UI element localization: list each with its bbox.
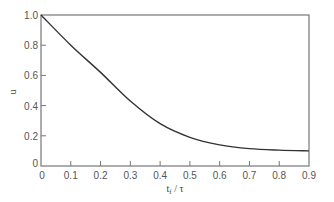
x-tick-label: 0.8 bbox=[272, 170, 286, 181]
y-tick-label: 0.4 bbox=[24, 101, 38, 112]
line-chart: 00.10.20.30.40.50.60.70.80.9 00.20.40.60… bbox=[0, 0, 334, 202]
x-tick-label: 0.3 bbox=[123, 170, 137, 181]
x-axis-ticks: 00.10.20.30.40.50.60.70.80.9 bbox=[39, 161, 316, 181]
x-tick-label: 0.6 bbox=[213, 170, 227, 181]
plot-border bbox=[41, 15, 309, 166]
y-axis-label: u bbox=[7, 90, 18, 95]
x-tick-label: 0.4 bbox=[153, 170, 167, 181]
x-tick-label: 0.7 bbox=[242, 170, 256, 181]
x-tick-label: 0 bbox=[39, 170, 45, 181]
y-tick-label: 0.2 bbox=[24, 131, 38, 142]
y-axis-ticks: 00.20.40.60.81.0 bbox=[24, 10, 46, 169]
y-tick-label: 0.8 bbox=[24, 40, 38, 51]
data-line-u bbox=[41, 15, 309, 151]
plot-frame bbox=[41, 15, 309, 166]
x-tick-label: 0.5 bbox=[183, 170, 197, 181]
x-axis-label: tf / τ bbox=[167, 183, 184, 196]
y-tick-label: 0 bbox=[32, 158, 38, 169]
x-tick-label: 0.2 bbox=[94, 170, 108, 181]
x-tick-label: 0.9 bbox=[302, 170, 316, 181]
y-tick-label: 1.0 bbox=[24, 10, 38, 21]
y-tick-label: 0.6 bbox=[24, 70, 38, 81]
x-tick-label: 0.1 bbox=[64, 170, 78, 181]
